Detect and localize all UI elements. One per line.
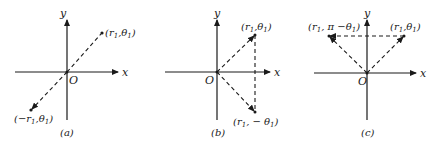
y-axis-label: y	[59, 7, 67, 20]
point-r1-pi-minus-theta1	[328, 35, 331, 38]
origin-label: O	[69, 74, 78, 87]
y-axis-label: y	[363, 7, 371, 20]
ray-to-point	[67, 34, 101, 72]
point-r1-neg-theta1	[254, 111, 257, 114]
caption-b: (b)	[211, 127, 225, 138]
caption-c: (c)	[361, 127, 375, 138]
point-r1-theta1	[100, 31, 103, 34]
ray-to-reflected-point	[32, 72, 67, 109]
x-axis-label: x	[274, 66, 281, 79]
point-label-r1-theta1: (r1,θ1)	[390, 21, 421, 34]
y-axis-label: y	[213, 7, 221, 20]
panel-b: x y O (r1,θ1) (r1, − θ1) (b)	[165, 7, 281, 138]
point-label-r1-pi-minus-theta1: (r1, π −θ1)	[308, 21, 360, 34]
polar-symmetry-figure: x y O (r1,θ1) (−r1,θ1) (a) x y O (r1,θ1)…	[0, 0, 436, 147]
ray-to-reflected-point	[330, 37, 367, 73]
panel-c: x y O (r1,θ1) (r1, π −θ1) (c)	[308, 7, 427, 138]
origin-label: O	[358, 75, 367, 88]
panel-a: x y O (r1,θ1) (−r1,θ1) (a)	[14, 7, 136, 138]
point-label-r1-theta1: (r1,θ1)	[241, 21, 272, 34]
point-r1-theta1	[403, 35, 406, 38]
origin-label: O	[205, 74, 214, 87]
x-axis-label: x	[122, 66, 129, 79]
point-neg-r1-theta1	[29, 108, 32, 111]
caption-a: (a)	[60, 127, 74, 138]
point-label-r1-theta1: (r1,θ1)	[105, 27, 136, 40]
point-label-neg-r1-theta1: (−r1,θ1)	[14, 113, 53, 126]
ray-to-reflected-point	[217, 72, 254, 111]
point-label-r1-neg-theta1: (r1, − θ1)	[233, 116, 279, 129]
ray-to-point	[217, 36, 254, 72]
ray-to-point	[367, 37, 403, 73]
x-axis-label: x	[420, 67, 427, 80]
